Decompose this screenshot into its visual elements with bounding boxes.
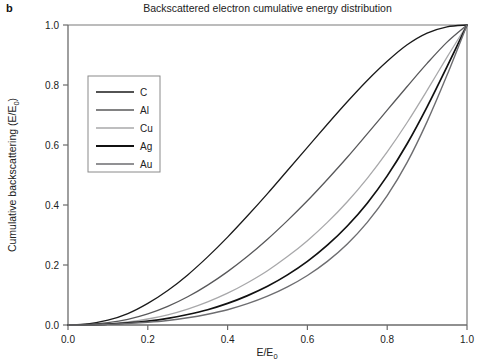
x-axis-ticks: 0.00.20.40.60.81.0 [61,325,474,345]
legend-label-au: Au [140,159,152,170]
chart-legend: CAlCuAgAu [88,76,160,172]
y-axis-title-base: Cumulative backscattering (E/E [6,106,18,252]
y-tick-label: 0.2 [45,260,59,271]
legend-label-c: C [140,87,147,98]
y-axis-title: Cumulative backscattering (E/E0) [6,98,21,252]
chart-plot: 0.00.20.40.60.81.0 0.00.20.40.60.81.0 E/… [0,0,477,364]
axes-frame [68,25,467,325]
x-axis-title-base: E/E [256,346,273,358]
curve-al [68,25,467,325]
legend-label-cu: Cu [140,123,153,134]
x-tick-label: 1.0 [460,334,474,345]
x-tick-label: 0.4 [221,334,235,345]
y-axis-title-tail: ) [6,98,18,102]
y-axis-ticks: 0.00.20.40.60.81.0 [45,20,68,331]
legend-label-al: Al [140,105,149,116]
x-tick-label: 0.0 [61,334,75,345]
legend-label-ag: Ag [140,141,152,152]
x-axis-title: E/E0 [256,346,277,361]
y-tick-label: 0.8 [45,80,59,91]
curve-au [68,25,467,325]
curve-c [68,25,467,325]
x-axis-title-subscript: 0 [273,352,277,361]
curve-ag [68,25,467,325]
data-curves [68,25,467,325]
curve-cu [68,25,467,325]
x-tick-label: 0.2 [141,334,155,345]
x-tick-label: 0.8 [380,334,394,345]
y-tick-label: 0.0 [45,320,59,331]
y-tick-label: 0.4 [45,200,59,211]
x-tick-label: 0.6 [300,334,314,345]
y-tick-label: 0.6 [45,140,59,151]
figure-panel: b Backscattered electron cumulative ener… [0,0,477,364]
y-tick-label: 1.0 [45,20,59,31]
